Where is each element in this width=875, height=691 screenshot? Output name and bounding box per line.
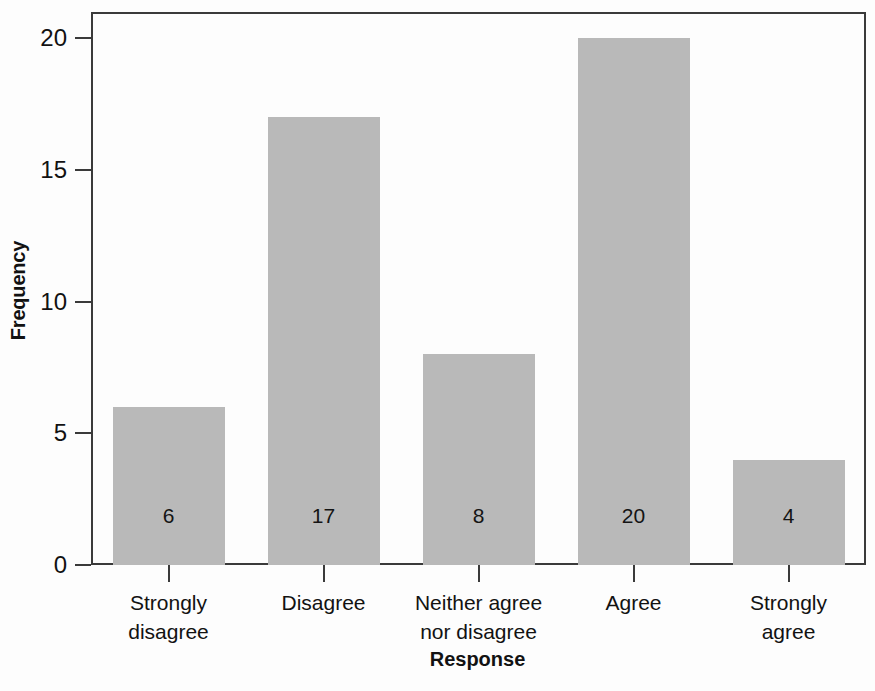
x-tick-label-line: nor disagree (374, 617, 584, 646)
y-tick-mark (75, 301, 91, 303)
x-tick-mark (633, 565, 635, 582)
bar-value-label: 20 (578, 505, 690, 526)
x-tick-mark (168, 565, 170, 582)
bar-chart: Frequency 05101520 6178204 Stronglydisag… (0, 0, 875, 691)
y-tick-label: 10 (7, 287, 67, 317)
y-tick-label: 20 (7, 23, 67, 53)
x-tick-label-line: disagree (64, 617, 274, 646)
y-tick-mark (75, 564, 91, 566)
x-tick-mark (478, 565, 480, 582)
bar-value-label: 8 (423, 505, 535, 526)
bar (423, 354, 535, 565)
x-tick-mark (323, 565, 325, 582)
x-tick-label-line: Strongly (684, 588, 875, 617)
y-tick-label: 5 (7, 418, 67, 448)
y-tick-mark (75, 169, 91, 171)
bar-value-label: 6 (113, 505, 225, 526)
x-tick-label-line: agree (684, 617, 875, 646)
bar (578, 38, 690, 565)
bar (268, 117, 380, 565)
y-tick-label: 15 (7, 155, 67, 185)
x-axis-title: Response (0, 648, 875, 671)
bar-value-label: 17 (268, 505, 380, 526)
y-tick-label: 0 (7, 550, 67, 580)
y-tick-mark (75, 432, 91, 434)
plot-area: 05101520 6178204 (91, 12, 866, 565)
x-tick-label: Stronglyagree (684, 588, 875, 646)
bar (113, 407, 225, 565)
y-tick-mark (75, 37, 91, 39)
bar-value-label: 4 (733, 505, 845, 526)
x-tick-mark (788, 565, 790, 582)
